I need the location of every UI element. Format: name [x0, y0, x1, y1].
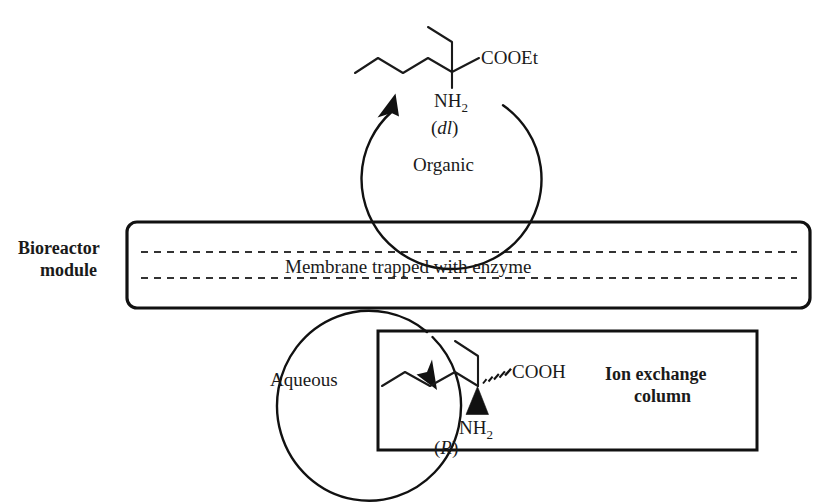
substrate-amine-main: NH	[434, 90, 462, 111]
product-solid-wedge-to-amine	[466, 387, 489, 415]
ion-exchange-column-label-line1: Ion exchange	[605, 364, 707, 384]
organic-phase-label: Organic	[413, 154, 474, 175]
substrate-amine-label: NH2	[434, 90, 468, 115]
aqueous-phase-label: Aqueous	[270, 369, 338, 390]
aqueous-phase-loop	[277, 311, 461, 501]
organic-loop-arrowhead	[378, 94, 400, 118]
aqueous-loop-arrowhead	[417, 360, 438, 391]
membrane-label: Membrane trapped with enzyme	[285, 256, 531, 277]
substrate-carbon-chain	[355, 58, 452, 73]
product-stereo-close: )	[452, 437, 458, 459]
product-amine-label: NH2	[459, 417, 493, 442]
product-stereo-label: (R)	[434, 437, 458, 459]
substrate-amine-subscript: 2	[461, 100, 468, 115]
ion-exchange-column-box	[378, 331, 757, 450]
figure-canvas: COOEt NH2 (dl) Organic Membrane trapped …	[0, 0, 836, 502]
process-flow-diagram: COOEt NH2 (dl) Organic Membrane trapped …	[0, 0, 836, 502]
product-amine-subscript: 2	[486, 427, 493, 442]
product-stereo-italic: R	[439, 437, 452, 458]
ion-exchange-column-label-line2: column	[634, 386, 691, 406]
substrate-stereo-italic: dl	[437, 117, 452, 138]
substrate-ester-label: COOEt	[481, 47, 539, 68]
substrate-stereo-label: (dl)	[431, 117, 458, 139]
substrate-stereo-close: )	[452, 117, 458, 139]
product-amine-main: NH	[459, 417, 487, 438]
bioreactor-module-label-line1: Bioreactor	[18, 238, 100, 258]
bioreactor-module-label-line2: module	[40, 260, 97, 280]
product-acid-label: COOH	[512, 361, 566, 382]
substrate-bond-to-ester	[452, 58, 479, 72]
product-hashed-wedge-to-acid	[483, 369, 511, 384]
